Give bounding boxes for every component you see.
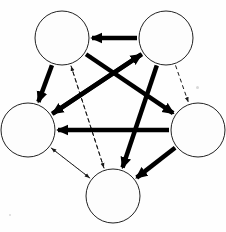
node-layer <box>1 11 225 223</box>
graph-node-n4[interactable] <box>171 103 225 157</box>
thin-edge-n2-to-n4 <box>176 65 189 101</box>
graph-node-n1[interactable] <box>35 11 89 65</box>
scan-speck <box>196 86 199 89</box>
graph-node-n2[interactable] <box>139 11 193 65</box>
graph-canvas <box>0 0 226 232</box>
graph-node-n5[interactable] <box>86 169 140 223</box>
thick-edge-n4-to-n5 <box>137 148 175 178</box>
scan-speck <box>9 214 11 216</box>
network-diagram-figure <box>0 0 226 232</box>
thick-edge-n1-to-n3 <box>38 65 52 102</box>
graph-node-n3[interactable] <box>1 103 55 157</box>
